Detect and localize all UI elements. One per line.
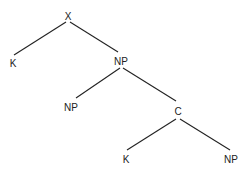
node-k-left: K: [10, 58, 17, 69]
edge-x-np: [70, 22, 118, 52]
edge-c-k: [127, 119, 176, 150]
node-np-mid: NP: [114, 56, 128, 67]
node-np-lower-right: NP: [224, 154, 238, 165]
edge-c-np: [180, 119, 230, 150]
node-x: X: [65, 11, 72, 22]
edge-np-c: [123, 68, 176, 101]
edge-np-np: [76, 68, 120, 98]
edge-x-k: [14, 22, 66, 55]
node-k-lower: K: [123, 154, 130, 165]
node-np-left: NP: [64, 102, 78, 113]
node-c: C: [174, 106, 181, 117]
syntax-tree-diagram: X K NP NP C K NP: [0, 0, 249, 175]
